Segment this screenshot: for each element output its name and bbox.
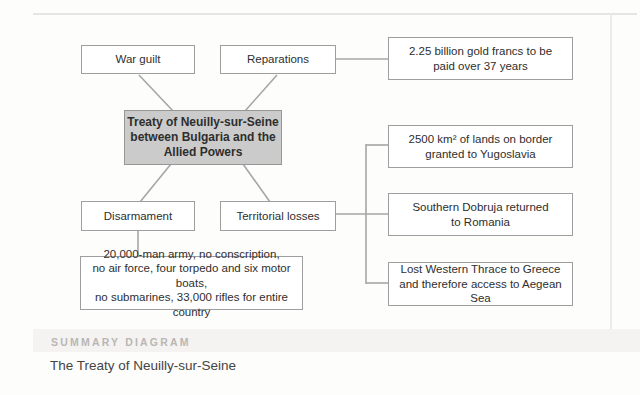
summary-diagram-kicker: SUMMARY DIAGRAM — [51, 336, 191, 348]
node-treaty-center: Treaty of Neuilly-sur-Seine between Bulg… — [124, 110, 282, 165]
node-romania-detail-text: Southern Dobruja returned to Romania — [412, 200, 548, 229]
node-reparations-detail: 2.25 billion gold francs to be paid over… — [388, 37, 573, 80]
connector-treaty-disarmament — [140, 164, 171, 202]
node-reparations-label: Reparations — [247, 52, 309, 67]
connector-treaty-territorial — [243, 164, 270, 202]
node-disarmament-detail: 20,000-man army, no conscription, no air… — [80, 256, 303, 310]
node-territorial-losses-label: Territorial losses — [236, 209, 319, 224]
connector-reparations-treaty — [245, 75, 277, 111]
node-yugoslavia-detail: 2500 km² of lands on border granted to Y… — [388, 125, 573, 168]
node-disarmament-detail-text: 20,000-man army, no conscription, no air… — [81, 247, 302, 320]
node-romania-detail: Southern Dobruja returned to Romania — [388, 193, 573, 236]
caption-title: The Treaty of Neuilly-sur-Seine — [50, 358, 236, 373]
node-territorial-losses: Territorial losses — [220, 201, 336, 231]
node-greece-detail: Lost Western Thrace to Greece and theref… — [388, 262, 573, 306]
node-disarmament: Disarmament — [81, 201, 195, 231]
node-disarmament-label: Disarmament — [104, 209, 172, 224]
node-reparations-detail-text: 2.25 billion gold francs to be paid over… — [409, 44, 552, 73]
node-war-guilt-label: War guilt — [116, 52, 161, 67]
node-greece-detail-text: Lost Western Thrace to Greece and theref… — [389, 262, 572, 306]
connector-warguilt-treaty — [139, 75, 173, 111]
node-treaty-text: Treaty of Neuilly-sur-Seine between Bulg… — [127, 115, 278, 160]
node-war-guilt: War guilt — [81, 45, 195, 74]
page: War guilt Reparations Treaty of Neuilly-… — [0, 0, 640, 395]
node-yugoslavia-detail-text: 2500 km² of lands on border granted to Y… — [409, 132, 553, 161]
node-reparations: Reparations — [220, 45, 336, 74]
